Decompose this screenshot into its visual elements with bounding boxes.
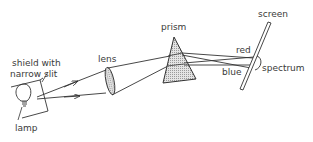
spectrum-label: spectrum [262, 63, 305, 73]
dispersed-rays [182, 53, 254, 68]
blue-label: blue [222, 67, 242, 77]
red-label: red [236, 45, 251, 55]
shield-label-line2: narrow slit [10, 69, 58, 79]
lamp-icon [16, 84, 31, 106]
prism-spectrum-diagram: shield with narrow slit lamp lens prism … [0, 0, 313, 142]
diagram-svg: shield with narrow slit lamp lens prism … [0, 0, 313, 142]
lens-label: lens [98, 54, 117, 64]
lens-icon [103, 66, 117, 95]
screen-label: screen [258, 9, 288, 19]
lens-to-prism-rays [108, 56, 170, 95]
screen-icon [240, 22, 271, 90]
lamp-leader-line [18, 107, 22, 120]
lamp-label: lamp [15, 123, 38, 133]
prism-label: prism [161, 22, 186, 32]
shield-label-line1: shield with [12, 58, 61, 68]
prism-icon [163, 37, 196, 83]
